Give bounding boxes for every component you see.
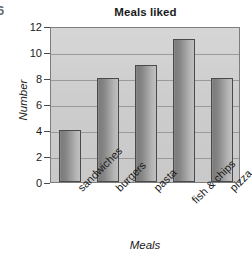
figure-edge-mark: 6 xyxy=(0,4,6,17)
chart-title: Meals liked xyxy=(50,6,241,18)
y-tick-label: 12 xyxy=(22,22,42,33)
y-tick-label: 10 xyxy=(22,48,42,59)
gridline xyxy=(51,54,239,55)
y-tick-mark xyxy=(44,131,50,132)
y-tick-mark xyxy=(44,105,50,106)
y-tick-mark xyxy=(44,27,50,28)
y-tick-label: 2 xyxy=(22,152,42,163)
x-axis-title: Meals xyxy=(50,239,240,251)
y-axis-title: Number xyxy=(17,70,29,130)
x-axis-tick-labels: sandwichesburgerspastafish & chipspizza xyxy=(0,183,252,239)
bar xyxy=(59,130,82,182)
y-tick-mark xyxy=(44,157,50,158)
bar xyxy=(173,39,196,182)
bar-chart-figure: 6 Meals liked 024681012 Number sandwiche… xyxy=(0,0,252,263)
y-tick-mark xyxy=(44,79,50,80)
y-tick-mark xyxy=(44,53,50,54)
plot-area xyxy=(50,27,240,183)
